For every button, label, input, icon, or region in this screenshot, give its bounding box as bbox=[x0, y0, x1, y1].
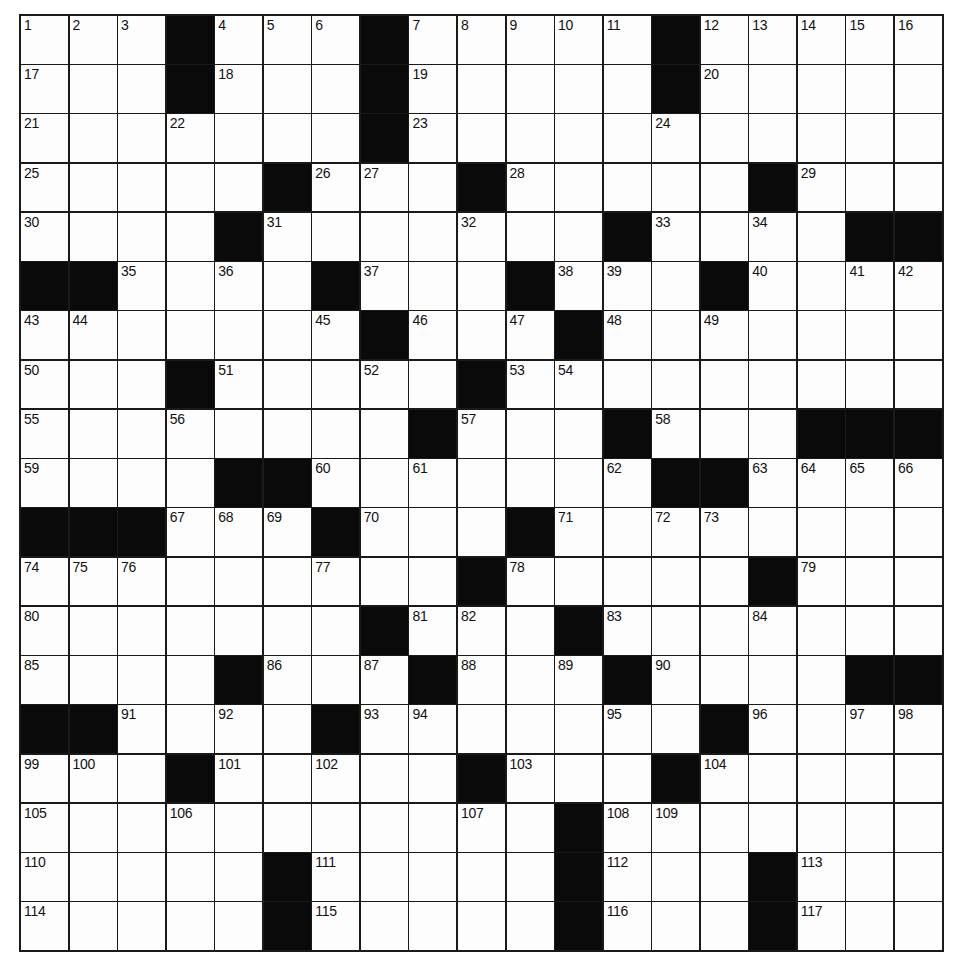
answer-cell[interactable] bbox=[312, 65, 359, 113]
answer-cell[interactable]: 92 bbox=[215, 705, 262, 753]
answer-cell[interactable] bbox=[118, 164, 165, 212]
answer-cell[interactable] bbox=[604, 164, 651, 212]
answer-cell[interactable] bbox=[652, 164, 699, 212]
answer-cell[interactable] bbox=[167, 213, 214, 261]
answer-cell[interactable] bbox=[895, 607, 942, 655]
answer-cell[interactable] bbox=[846, 755, 893, 803]
answer-cell[interactable]: 75 bbox=[70, 558, 117, 606]
answer-cell[interactable] bbox=[215, 607, 262, 655]
answer-cell[interactable] bbox=[749, 114, 796, 162]
answer-cell[interactable] bbox=[507, 853, 554, 901]
answer-cell[interactable]: 95 bbox=[604, 705, 651, 753]
answer-cell[interactable] bbox=[458, 853, 505, 901]
answer-cell[interactable]: 59 bbox=[21, 459, 68, 507]
answer-cell[interactable]: 96 bbox=[749, 705, 796, 753]
answer-cell[interactable]: 111 bbox=[312, 853, 359, 901]
answer-cell[interactable] bbox=[312, 213, 359, 261]
answer-cell[interactable]: 24 bbox=[652, 114, 699, 162]
answer-cell[interactable] bbox=[70, 607, 117, 655]
answer-cell[interactable] bbox=[846, 508, 893, 556]
answer-cell[interactable] bbox=[361, 213, 408, 261]
answer-cell[interactable]: 18 bbox=[215, 65, 262, 113]
answer-cell[interactable]: 20 bbox=[701, 65, 748, 113]
answer-cell[interactable]: 98 bbox=[895, 705, 942, 753]
answer-cell[interactable]: 2 bbox=[70, 16, 117, 64]
answer-cell[interactable]: 112 bbox=[604, 853, 651, 901]
answer-cell[interactable] bbox=[895, 804, 942, 852]
answer-cell[interactable] bbox=[798, 705, 845, 753]
answer-cell[interactable] bbox=[215, 164, 262, 212]
answer-cell[interactable] bbox=[846, 311, 893, 359]
answer-cell[interactable] bbox=[798, 114, 845, 162]
answer-cell[interactable] bbox=[895, 558, 942, 606]
answer-cell[interactable]: 57 bbox=[458, 410, 505, 458]
answer-cell[interactable] bbox=[749, 656, 796, 704]
answer-cell[interactable] bbox=[409, 164, 456, 212]
answer-cell[interactable]: 10 bbox=[555, 16, 602, 64]
answer-cell[interactable]: 65 bbox=[846, 459, 893, 507]
answer-cell[interactable]: 84 bbox=[749, 607, 796, 655]
answer-cell[interactable] bbox=[798, 755, 845, 803]
answer-cell[interactable] bbox=[555, 114, 602, 162]
answer-cell[interactable]: 46 bbox=[409, 311, 456, 359]
answer-cell[interactable] bbox=[555, 705, 602, 753]
answer-cell[interactable]: 41 bbox=[846, 262, 893, 310]
answer-cell[interactable] bbox=[701, 853, 748, 901]
answer-cell[interactable] bbox=[701, 902, 748, 950]
answer-cell[interactable]: 25 bbox=[21, 164, 68, 212]
answer-cell[interactable] bbox=[118, 311, 165, 359]
answer-cell[interactable]: 5 bbox=[264, 16, 311, 64]
answer-cell[interactable] bbox=[361, 902, 408, 950]
answer-cell[interactable] bbox=[798, 607, 845, 655]
answer-cell[interactable] bbox=[312, 607, 359, 655]
answer-cell[interactable] bbox=[846, 804, 893, 852]
answer-cell[interactable]: 74 bbox=[21, 558, 68, 606]
answer-cell[interactable]: 77 bbox=[312, 558, 359, 606]
answer-cell[interactable] bbox=[70, 804, 117, 852]
answer-cell[interactable]: 38 bbox=[555, 262, 602, 310]
answer-cell[interactable]: 110 bbox=[21, 853, 68, 901]
answer-cell[interactable] bbox=[652, 853, 699, 901]
answer-cell[interactable] bbox=[264, 410, 311, 458]
answer-cell[interactable] bbox=[215, 114, 262, 162]
answer-cell[interactable]: 13 bbox=[749, 16, 796, 64]
answer-cell[interactable] bbox=[846, 853, 893, 901]
answer-cell[interactable] bbox=[167, 705, 214, 753]
answer-cell[interactable]: 47 bbox=[507, 311, 554, 359]
answer-cell[interactable]: 87 bbox=[361, 656, 408, 704]
answer-cell[interactable] bbox=[846, 65, 893, 113]
answer-cell[interactable] bbox=[118, 853, 165, 901]
answer-cell[interactable]: 28 bbox=[507, 164, 554, 212]
answer-cell[interactable]: 15 bbox=[846, 16, 893, 64]
answer-cell[interactable] bbox=[798, 311, 845, 359]
answer-cell[interactable] bbox=[409, 853, 456, 901]
answer-cell[interactable]: 36 bbox=[215, 262, 262, 310]
answer-cell[interactable] bbox=[895, 361, 942, 409]
answer-cell[interactable] bbox=[458, 459, 505, 507]
answer-cell[interactable]: 86 bbox=[264, 656, 311, 704]
answer-cell[interactable] bbox=[895, 902, 942, 950]
answer-cell[interactable] bbox=[361, 804, 408, 852]
answer-cell[interactable]: 91 bbox=[118, 705, 165, 753]
answer-cell[interactable] bbox=[507, 804, 554, 852]
answer-cell[interactable] bbox=[604, 65, 651, 113]
answer-cell[interactable] bbox=[652, 607, 699, 655]
answer-cell[interactable] bbox=[507, 705, 554, 753]
answer-cell[interactable] bbox=[458, 902, 505, 950]
answer-cell[interactable] bbox=[701, 804, 748, 852]
answer-cell[interactable]: 19 bbox=[409, 65, 456, 113]
answer-cell[interactable] bbox=[458, 705, 505, 753]
answer-cell[interactable] bbox=[507, 459, 554, 507]
answer-cell[interactable] bbox=[409, 804, 456, 852]
answer-cell[interactable] bbox=[701, 656, 748, 704]
answer-cell[interactable] bbox=[846, 902, 893, 950]
answer-cell[interactable] bbox=[507, 410, 554, 458]
answer-cell[interactable]: 39 bbox=[604, 262, 651, 310]
answer-cell[interactable] bbox=[409, 755, 456, 803]
answer-cell[interactable] bbox=[167, 656, 214, 704]
answer-cell[interactable] bbox=[361, 410, 408, 458]
answer-cell[interactable] bbox=[749, 755, 796, 803]
answer-cell[interactable]: 81 bbox=[409, 607, 456, 655]
answer-cell[interactable] bbox=[264, 114, 311, 162]
answer-cell[interactable] bbox=[215, 853, 262, 901]
